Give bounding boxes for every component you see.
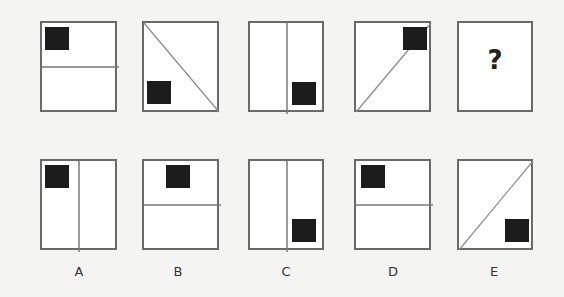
option-label-e: E	[479, 264, 509, 279]
black-square	[403, 27, 427, 50]
option-panel-e[interactable]	[457, 159, 533, 250]
option-panel-c[interactable]	[248, 159, 324, 250]
option-panel-d[interactable]	[354, 159, 431, 250]
black-square	[147, 81, 171, 104]
question-mark: ?	[459, 45, 531, 75]
sequence-panel-2	[142, 21, 219, 112]
option-panel-a[interactable]	[40, 159, 117, 250]
black-square	[45, 27, 69, 50]
black-square	[292, 82, 316, 105]
black-square	[166, 165, 190, 188]
black-square	[361, 165, 385, 188]
black-square	[45, 165, 69, 188]
option-label-a: A	[64, 264, 94, 279]
option-label-b: B	[163, 264, 193, 279]
option-panel-b[interactable]	[142, 159, 219, 250]
sequence-panel-5: ?	[457, 21, 533, 112]
sequence-panel-3	[248, 21, 324, 112]
black-square	[505, 219, 529, 242]
black-square	[292, 219, 316, 242]
sequence-panel-1	[40, 21, 117, 112]
option-label-c: C	[271, 264, 301, 279]
sequence-panel-4	[354, 21, 431, 112]
option-label-d: D	[378, 264, 408, 279]
